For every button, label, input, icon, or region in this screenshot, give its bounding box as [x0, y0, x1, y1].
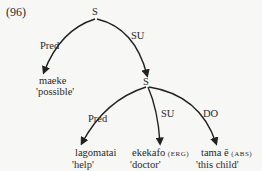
edge-label-sub-pred: Pred [88, 113, 107, 124]
leaf-word-maeke: maeke [39, 75, 66, 86]
leaf-gloss-help: 'help' [72, 159, 94, 170]
edge-label-su: SU [131, 30, 144, 41]
leaf-gloss-possible: 'possible' [36, 86, 74, 97]
edge-sub-su [148, 87, 160, 143]
edge-label-pred: Pred [40, 40, 59, 51]
leaf-word-tama: tama ē [201, 147, 229, 158]
case-erg: (ERG) [168, 150, 189, 158]
leaf-gloss-this-child: 'this child' [196, 159, 239, 170]
leaf-gloss-doctor: 'doctor' [130, 159, 161, 170]
edge-root-su [97, 19, 147, 75]
sub-node: S [143, 76, 149, 87]
leaf-word-ekekafo: ekekafo [132, 147, 165, 158]
root-node: S [92, 6, 98, 17]
leaf-word-lagomatai: lagomatai [75, 147, 116, 158]
example-number: (96) [6, 7, 26, 18]
edge-label-sub-do: DO [203, 108, 218, 119]
edge-label-sub-su: SU [161, 108, 174, 119]
case-abs: (ABS) [231, 150, 252, 158]
